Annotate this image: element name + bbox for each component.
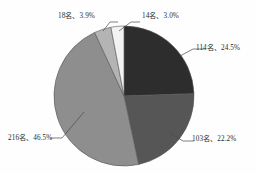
pie-label-14: 14名、3.0% [142, 13, 179, 20]
pie-label-18: 18名、3.9% [58, 13, 95, 20]
pie-slice-114[interactable] [124, 26, 194, 96]
pie-slices [54, 26, 194, 166]
pie-label-216: 216名、46.5% [8, 135, 52, 142]
pie-label-103: 103名、22.2% [192, 136, 236, 143]
pie-chart-figure: 18名、3.9% 14名、3.0% 114名、24.5% 103名、22.2% … [0, 0, 256, 173]
pie-chart-canvas [0, 0, 256, 173]
pie-label-114: 114名、24.5% [196, 45, 240, 52]
